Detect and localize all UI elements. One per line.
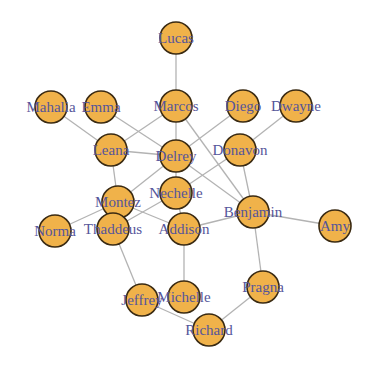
node-label: Marcos <box>154 98 199 114</box>
node-label: Nechelle <box>149 185 203 201</box>
node-label: Diego <box>225 98 262 114</box>
node-mahalia[interactable]: Mahalia <box>26 91 75 123</box>
node-label: Thaddeus <box>84 221 142 237</box>
node-label: Delrey <box>156 148 197 164</box>
node-label: Richard <box>185 322 233 338</box>
node-label: Mahalia <box>26 99 75 115</box>
node-label: Lucas <box>158 30 194 46</box>
node-richard[interactable]: Richard <box>185 314 233 346</box>
node-label: Michelle <box>157 289 211 305</box>
node-label: Benjamin <box>224 204 283 220</box>
node-michelle[interactable]: Michelle <box>157 281 211 313</box>
network-graph: LucasMarcosDiegoDwayneMahaliaEmmaLeanaDe… <box>0 0 371 367</box>
node-leana[interactable]: Leana <box>93 134 130 166</box>
node-label: Montez <box>95 194 141 210</box>
node-label: Leana <box>93 142 130 158</box>
node-label: Dwayne <box>271 98 321 114</box>
node-donavon[interactable]: Donavon <box>213 134 268 166</box>
nodes-layer: LucasMarcosDiegoDwayneMahaliaEmmaLeanaDe… <box>26 22 351 346</box>
node-dwayne[interactable]: Dwayne <box>271 90 321 122</box>
node-amy[interactable]: Amy <box>319 210 351 242</box>
node-addison[interactable]: Addison <box>159 213 210 245</box>
node-lucas[interactable]: Lucas <box>158 22 194 54</box>
node-diego[interactable]: Diego <box>225 90 262 122</box>
node-label: Amy <box>320 218 351 234</box>
node-label: Norma <box>34 223 76 239</box>
node-emma[interactable]: Emma <box>81 91 120 123</box>
node-norma[interactable]: Norma <box>34 215 76 247</box>
node-label: Pragna <box>242 279 284 295</box>
node-label: Emma <box>81 99 120 115</box>
node-label: Donavon <box>213 142 268 158</box>
node-label: Addison <box>159 221 210 237</box>
node-benjamin[interactable]: Benjamin <box>224 196 283 228</box>
